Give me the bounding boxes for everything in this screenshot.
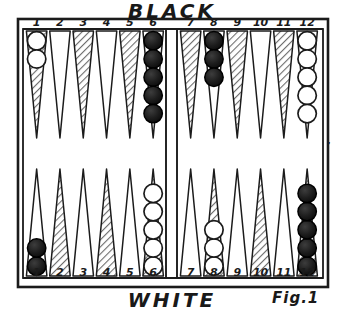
white-checker[interactable] (205, 239, 223, 257)
black-checker[interactable] (298, 221, 316, 239)
black-checker[interactable] (298, 239, 316, 257)
point-number-top-12: 12 (299, 16, 315, 29)
white-checker[interactable] (298, 68, 316, 86)
point-number-bottom-8: 8 (206, 266, 222, 279)
black-checker[interactable] (205, 68, 223, 86)
point-number-bottom-2: 2 (52, 266, 68, 279)
point-number-bottom-12: 12 (299, 266, 315, 279)
point-number-bottom-4: 4 (99, 266, 115, 279)
point-number-bottom-10: 10 (253, 266, 269, 279)
point-number-top-3: 3 (75, 16, 91, 29)
white-checker[interactable] (298, 32, 316, 50)
point-number-bottom-9: 9 (229, 266, 245, 279)
black-checker[interactable] (27, 239, 45, 257)
point-number-bottom-7: 7 (183, 266, 199, 279)
white-checker[interactable] (144, 202, 162, 220)
black-checker[interactable] (205, 32, 223, 50)
white-checker[interactable] (27, 32, 45, 50)
white-checker[interactable] (298, 50, 316, 68)
black-checker[interactable] (298, 202, 316, 220)
black-checker[interactable] (205, 50, 223, 68)
backgammon-board (0, 0, 344, 310)
point-number-top-2: 2 (52, 16, 68, 29)
point-number-top-6: 6 (145, 16, 161, 29)
point-number-top-7: 7 (183, 16, 199, 29)
point-number-bottom-3: 3 (75, 266, 91, 279)
point-number-bottom-1: 1 (29, 266, 45, 279)
point-number-top-10: 10 (253, 16, 269, 29)
white-checker[interactable] (144, 221, 162, 239)
point-number-bottom-11: 11 (276, 266, 292, 279)
point-number-bottom-6: 6 (145, 266, 161, 279)
white-checker[interactable] (27, 50, 45, 68)
black-checker[interactable] (298, 184, 316, 202)
point-number-top-11: 11 (276, 16, 292, 29)
white-checker[interactable] (298, 86, 316, 104)
white-checker[interactable] (144, 239, 162, 257)
point-number-bottom-5: 5 (122, 266, 138, 279)
white-checker[interactable] (144, 184, 162, 202)
point-number-top-9: 9 (229, 16, 245, 29)
black-checker[interactable] (144, 86, 162, 104)
backgammon-figure: BLACK WHITE Fig.1 INNER TABLE OUTER TABL… (0, 0, 344, 310)
point-number-top-5: 5 (122, 16, 138, 29)
point-number-top-4: 4 (99, 16, 115, 29)
black-checker[interactable] (144, 32, 162, 50)
point-number-top-1: 1 (29, 16, 45, 29)
black-checker[interactable] (144, 104, 162, 122)
white-checker[interactable] (298, 104, 316, 122)
black-checker[interactable] (144, 68, 162, 86)
white-checker[interactable] (205, 221, 223, 239)
black-checker[interactable] (144, 50, 162, 68)
point-number-top-8: 8 (206, 16, 222, 29)
